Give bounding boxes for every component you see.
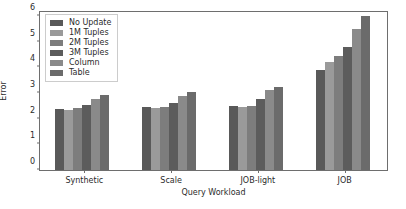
y-tick-label: 2 (30, 107, 40, 115)
legend-swatch-icon (50, 40, 63, 46)
legend-item: No Update (50, 18, 111, 28)
chart-legend: No Update1M Tuples2M Tuples3M TuplesColu… (45, 14, 118, 82)
legend-swatch-icon (50, 70, 63, 76)
x-axis-label: Query Workload (39, 188, 388, 197)
legend-item: Table (50, 68, 111, 78)
x-tick-mark (171, 170, 172, 173)
bar (169, 103, 178, 170)
y-tick-label: 4 (30, 55, 40, 63)
y-tick-label: 3 (30, 81, 40, 89)
legend-item: 1M Tuples (50, 28, 111, 38)
bar (247, 106, 256, 170)
bar (55, 109, 64, 170)
x-tick-label: JOB-light (240, 176, 275, 185)
bar (256, 99, 265, 170)
bar (178, 96, 187, 170)
x-tick-mark (84, 170, 85, 173)
bar (265, 90, 274, 170)
bar (100, 95, 109, 170)
x-tick-mark (258, 170, 259, 173)
legend-label: Table (69, 69, 90, 77)
legend-label: 2M Tuples (69, 39, 109, 47)
bar (334, 56, 343, 170)
legend-item: 3M Tuples (50, 48, 111, 58)
bar (151, 108, 160, 170)
bar (352, 29, 361, 170)
legend-swatch-icon (50, 20, 63, 26)
x-tick-label: JOB (338, 176, 352, 185)
legend-swatch-icon (50, 60, 63, 66)
bar-chart-figure: Error 0123456 SyntheticScaleJOB-lightJOB… (0, 0, 406, 209)
bar-group (142, 12, 198, 170)
legend-label: Column (69, 59, 100, 67)
bar (316, 70, 325, 170)
bar (82, 105, 91, 171)
y-axis-label: Error (0, 81, 8, 101)
legend-label: 3M Tuples (69, 49, 109, 57)
legend-swatch-icon (50, 30, 63, 36)
y-tick-label: 5 (30, 30, 40, 38)
bar (325, 62, 334, 170)
bar-group (229, 12, 285, 170)
legend-label: 1M Tuples (69, 29, 109, 37)
x-tick-mark (345, 170, 346, 173)
legend-item: 2M Tuples (50, 38, 111, 48)
bar (73, 108, 82, 170)
legend-label: No Update (69, 19, 111, 27)
bar (91, 99, 100, 170)
bar (238, 107, 247, 170)
x-tick-label: Synthetic (65, 176, 103, 185)
y-tick-label: 1 (30, 132, 40, 140)
y-tick-label: 6 (30, 4, 40, 12)
y-tick-label: 0 (30, 158, 40, 166)
bar (64, 110, 73, 170)
bar (142, 107, 151, 170)
bar-group (316, 12, 372, 170)
bar (160, 107, 169, 170)
bar (343, 47, 352, 170)
bar (187, 92, 196, 170)
x-tick-label: Scale (160, 176, 182, 185)
bar (361, 16, 370, 170)
legend-item: Column (50, 58, 111, 68)
bar (229, 106, 238, 170)
bar (274, 87, 283, 170)
legend-swatch-icon (50, 50, 63, 56)
